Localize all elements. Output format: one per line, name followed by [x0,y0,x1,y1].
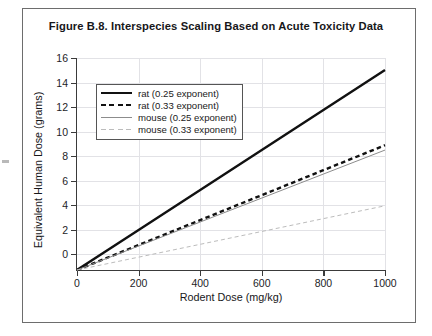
x-tick-label-400: 400 [177,277,223,289]
y-tick-label-0-text: 0 [44,248,68,260]
y-tick-label-16-text: 16 [44,52,68,64]
x-tick-label-200: 200 [116,277,162,289]
y-tick-label-2-text: 2 [44,224,68,236]
y-tick-label-10-text: 10 [44,126,68,138]
y-tick-label-4-text: 4 [44,199,68,211]
x-tick-400 [200,271,201,276]
legend-label-rat-033: rat (0.33 exponent) [138,100,219,111]
legend-label-rat-025: rat (0.25 exponent) [138,88,219,99]
legend-label-mouse-033: mouse (0.33 exponent) [138,124,237,135]
x-tick-label-800: 800 [300,277,346,289]
x-tick-800 [323,271,324,276]
y-tick-label-12-text: 12 [44,101,68,113]
y-tick-label-6-text: 6 [44,175,68,187]
x-tick-label-600: 600 [239,277,285,289]
y-tick-label-14-text: 14 [44,77,68,89]
legend-item-rat-025: rat (0.25 exponent) [101,87,237,99]
legend-swatch-rat-025-icon [101,88,132,98]
legend-label-mouse-025: mouse (0.25 exponent) [138,112,237,123]
legend-item-mouse-025: mouse (0.25 exponent) [101,111,237,123]
series-line-3 [77,206,385,270]
legend-item-mouse-033: mouse (0.33 exponent) [101,124,237,136]
series-line-2 [77,150,385,270]
x-axis-title: Rodent Dose (mg/kg) [77,291,385,303]
chart-legend: rat (0.25 exponent) rat (0.33 exponent) … [96,84,243,140]
legend-swatch-mouse-025-icon [101,112,132,122]
chart-plot: 16 14 12 10 8 6 4 2 0 0 200 400 600 800 … [0,0,432,336]
legend-swatch-mouse-033-icon [101,125,132,135]
series-line-1 [77,145,385,270]
x-tick-0 [77,271,78,276]
x-tick-200 [139,271,140,276]
x-tick-label-1000: 1000 [362,277,408,289]
y-tick-label-8-text: 8 [44,150,68,162]
x-tick-1000 [385,271,386,276]
legend-item-rat-033: rat (0.33 exponent) [101,99,237,111]
x-tick-600 [262,271,263,276]
legend-swatch-rat-033-icon [101,100,132,110]
y-axis-title: Equivalent Human Dose (grams) [32,65,44,275]
x-tick-label-0: 0 [54,277,100,289]
